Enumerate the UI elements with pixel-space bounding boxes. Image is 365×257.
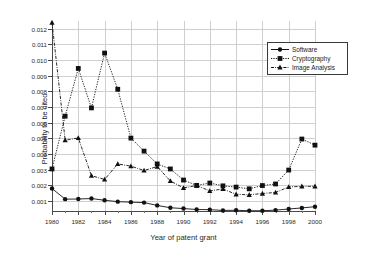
x-axis-title: Year of patent grant [52,233,315,242]
x-axis-tick-label: 1994 [229,218,243,225]
legend-label-cryptography: Cryptography [290,55,330,62]
x-axis-tick-label: 1996 [256,218,270,225]
x-axis-tick [315,211,316,215]
legend-sample-circle [270,45,290,54]
data-point-marker [89,173,94,178]
data-point-marker [89,196,93,200]
data-point-marker [194,207,198,211]
data-point-marker [168,206,172,210]
data-point-marker [312,184,317,189]
legend-item-cryptography: Cryptography [270,54,344,63]
y-axis-tick-label: 0.003 [32,166,47,173]
data-point-marker [273,208,277,212]
x-axis-tick-label: 1992 [203,218,217,225]
data-point-marker [247,186,252,191]
data-point-marker [142,200,146,204]
series-software [50,186,317,213]
y-axis-tick-label: 0.001 [32,198,47,205]
chart-figure: Probability to be cited Year of patent g… [0,0,365,257]
legend-sample-square [270,54,290,63]
x-axis-tick-label: 1980 [45,218,59,225]
data-point-marker [63,114,68,119]
y-axis-tick-label: 0.011 [32,41,47,48]
x-axis-tick-label: 1988 [150,218,164,225]
data-point-marker [115,161,120,166]
data-point-marker [181,206,185,210]
data-point-marker [89,105,94,110]
data-point-marker [76,135,81,140]
legend-label-software: Software [290,46,317,53]
data-point-marker [313,204,317,208]
data-point-marker [207,181,212,186]
x-axis-tick-label: 1990 [177,218,191,225]
y-axis-tick-label: 0.004 [32,151,47,158]
data-point-marker [115,87,120,92]
y-axis-tick-label: 0.006 [32,119,47,126]
data-point-marker [63,197,67,201]
legend-sample-triangle [270,63,290,72]
data-point-marker [155,203,159,207]
x-axis-tick-label: 2000 [308,218,322,225]
data-point-marker [260,209,264,213]
data-point-marker [168,167,173,172]
data-point-marker [50,167,55,172]
data-point-marker [50,186,54,190]
y-axis-tick-label: 0.002 [32,182,47,189]
legend-item-software: Software [270,45,344,54]
y-axis-tick-label: 0.007 [32,104,47,111]
data-point-marker [49,20,54,25]
data-point-marker [63,137,68,142]
data-point-marker [234,208,238,212]
chart-legend: Software Cryptography Image Analysis [267,42,348,75]
data-point-marker [181,178,186,183]
legend-label-image-analysis: Image Analysis [290,64,335,71]
y-axis-tick-label: 0.009 [32,72,47,79]
data-point-marker [102,198,106,202]
data-point-marker [286,168,291,173]
data-point-marker [313,143,318,148]
data-point-marker [102,51,107,56]
legend-item-image-analysis: Image Analysis [270,63,344,72]
data-point-marker [299,137,304,142]
data-point-marker [300,206,304,210]
y-axis-tick-label: 0.005 [32,135,47,142]
data-point-marker [129,200,133,204]
data-point-marker [260,183,265,188]
data-point-marker [234,185,239,190]
data-point-marker [273,182,278,187]
data-point-marker [76,66,81,71]
x-axis-tick-label: 1982 [71,218,85,225]
y-axis-tick-label: 0.010 [32,57,47,64]
data-point-marker [116,199,120,203]
data-point-marker [287,207,291,211]
x-axis-tick-label: 1986 [124,218,138,225]
y-axis-tick-label: 0.012 [32,25,47,32]
data-point-marker [129,136,134,141]
data-point-marker [221,208,225,212]
data-point-marker [76,197,80,201]
data-point-marker [208,207,212,211]
x-axis-tick-label: 1998 [282,218,296,225]
y-axis-tick-label: 0.008 [32,88,47,95]
data-point-marker [247,209,251,213]
x-axis-tick-label: 1984 [98,218,112,225]
data-point-marker [142,149,147,154]
